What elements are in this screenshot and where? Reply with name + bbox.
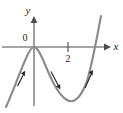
x-axis-arrow-icon: [104, 44, 111, 51]
origin-label: 0: [23, 32, 28, 43]
cubic-curve: [6, 16, 101, 107]
x-axis-label: x: [113, 40, 119, 52]
y-axis-arrow-icon: [31, 16, 38, 23]
x-tick-label-2: 2: [66, 53, 71, 64]
math-graph-figure: y x 0 2: [0, 0, 123, 113]
y-axis-label: y: [25, 4, 31, 16]
